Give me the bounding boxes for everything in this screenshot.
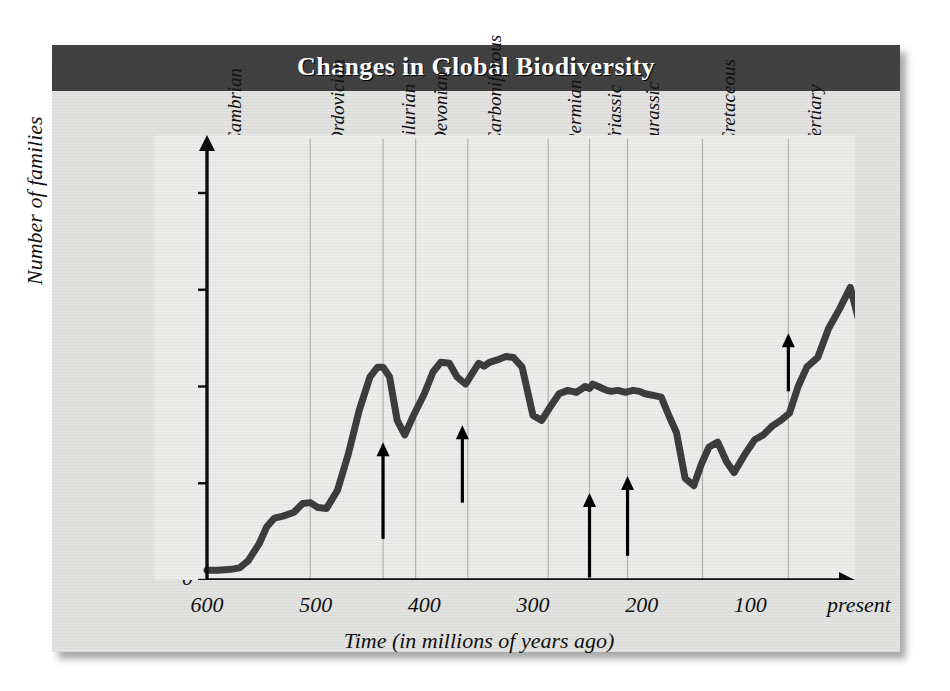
period-label-carboniferous: Carboniferous bbox=[484, 35, 506, 145]
x-tick-label: present bbox=[827, 592, 891, 618]
x-tick-label: 300 bbox=[517, 592, 550, 618]
arrow-head bbox=[782, 333, 795, 347]
plot-area bbox=[155, 135, 855, 580]
period-label-devonian: Devonian bbox=[430, 71, 452, 145]
x-axis-arrowhead bbox=[839, 572, 855, 580]
figure-plate: Changes in Global Biodiversity Number of… bbox=[52, 45, 900, 652]
x-axis-title: Time (in millions of years ago) bbox=[104, 628, 854, 654]
extinction-arrow-end-Cretaceous bbox=[782, 333, 795, 391]
extinction-arrow-end-Ordovician bbox=[377, 442, 390, 539]
title-banner: Changes in Global Biodiversity bbox=[52, 45, 900, 91]
biodiversity-line-chart bbox=[155, 135, 855, 580]
extinction-arrow-end-Triassic bbox=[621, 476, 634, 556]
x-tick-label: 400 bbox=[408, 592, 441, 618]
x-tick-label: 100 bbox=[734, 592, 767, 618]
biodiversity-curve bbox=[207, 287, 855, 570]
page-title: Changes in Global Biodiversity bbox=[52, 52, 900, 82]
arrow-head bbox=[377, 442, 390, 456]
x-tick-label: 500 bbox=[299, 592, 332, 618]
period-label-cambrian: Cambrian bbox=[224, 68, 246, 145]
figure-root: Changes in Global Biodiversity Number of… bbox=[0, 0, 950, 691]
arrow-head bbox=[583, 493, 596, 507]
extinction-arrow-end-Permian bbox=[583, 493, 596, 578]
y-axis-title: Number of families bbox=[22, 116, 48, 285]
period-label-cretaceous: Cretaceous bbox=[718, 59, 740, 145]
y-axis-arrowhead bbox=[199, 135, 215, 151]
x-tick-label: 600 bbox=[191, 592, 224, 618]
extinction-arrow-late-Devonian bbox=[456, 425, 469, 502]
arrow-head bbox=[456, 425, 469, 439]
period-label-ordovician: Ordovician bbox=[327, 59, 349, 145]
x-tick-label: 200 bbox=[625, 592, 658, 618]
arrow-head bbox=[621, 476, 634, 490]
